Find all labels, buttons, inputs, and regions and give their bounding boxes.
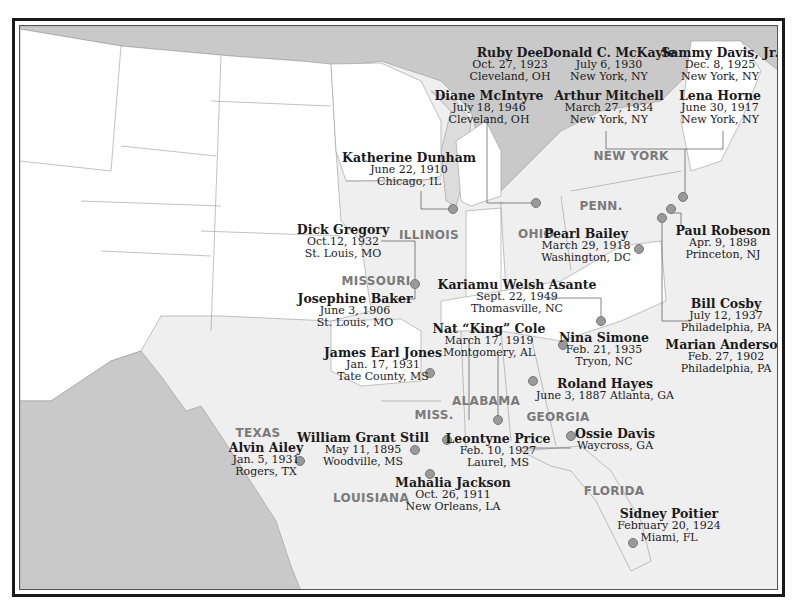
person-birth-date: Dec. 8, 1925 [661,59,778,71]
person-birth-date: July 6, 1930 [542,59,675,71]
person-label: Pearl BaileyMarch 29, 1918Washington, DC [541,227,631,263]
person-birthplace: Tryon, NC [559,356,649,368]
person-birthplace: Chicago, IL [342,176,476,188]
person-birth-date: March 27, 1934 [554,102,664,114]
location-dot-icon [410,279,420,289]
person-birth-date: Apr. 9, 1898 [675,237,770,249]
person-label: Donald C. McKayleJuly 6, 1930New York, N… [542,46,675,82]
person-birth-date: Feb. 27, 1902 [665,351,778,363]
map-canvas: NEW YORKPENN.OHIOILLINOISMISSOURIALABAMA… [19,25,778,590]
person-label: Alvin AileyJan. 5, 1931Rogers, TX [229,441,303,477]
person-birth-date: Feb. 21, 1935 [559,344,649,356]
person-birth-date: June 3, 1887 Atlanta, GA [536,390,674,402]
person-birthplace: St. Louis, MO [297,248,389,260]
state-label: MISS. [414,408,453,422]
location-dot-icon [596,316,606,326]
person-label: Ossie DavisWaycross, GA [575,427,655,452]
person-label: Katherine DunhamJune 22, 1910Chicago, IL [342,151,476,187]
person-label: Nat “King” ColeMarch 17, 1919Montgomery,… [433,322,546,358]
person-birth-date: Waycross, GA [575,440,655,452]
person-birthplace: Montgomery, AL [433,347,546,359]
person-label: Marian AndersonFeb. 27, 1902Philadelphia… [665,338,778,374]
state-label: TEXAS [235,426,280,440]
person-birth-date: June 3, 1906 [297,305,412,317]
person-birth-date: Jan. 17, 1931 [324,359,442,371]
person-label: William Grant StillMay 11, 1895Woodville… [297,431,429,467]
person-birthplace: Miami, FL [617,532,720,544]
person-label: James Earl JonesJan. 17, 1931Tate County… [324,346,442,382]
person-label: Sammy Davis, Jr.Dec. 8, 1925New York, NY [661,46,778,82]
person-birthplace: Cleveland, OH [434,114,543,126]
person-birthplace: New York, NY [679,114,761,126]
person-birthplace: New Orleans, LA [395,501,511,513]
person-label: Leontyne PriceFeb. 10, 1927Laurel, MS [446,432,551,468]
person-birthplace: Philadelphia, PA [665,363,778,375]
person-label: Bill CosbyJuly 12, 1937Philadelphia, PA [681,297,772,333]
person-birth-date: July 12, 1937 [681,310,772,322]
state-label: GEORGIA [526,410,589,424]
person-birthplace: Laurel, MS [446,457,551,469]
person-birth-date: Oct. 26, 1911 [395,489,511,501]
location-dot-icon [634,244,644,254]
person-label: Kariamu Welsh AsanteSept. 22, 1949Thomas… [438,278,597,314]
person-birth-date: June 22, 1910 [342,164,476,176]
person-birthplace: New York, NY [554,114,664,126]
person-birthplace: Philadelphia, PA [681,322,772,334]
person-birthplace: St. Louis, MO [297,317,412,329]
person-birth-date: Jan. 5, 1931 [229,454,303,466]
location-dot-icon [493,415,503,425]
person-birthplace: Princeton, NJ [675,249,770,261]
person-birth-date: May 11, 1895 [297,444,429,456]
person-label: Mahalia JacksonOct. 26, 1911New Orleans,… [395,476,511,512]
person-birth-date: Oct.12, 1932 [297,236,389,248]
person-label: Diane McIntyreJuly 18, 1946Cleveland, OH [434,89,543,125]
person-label: Sidney PoitierFebruary 20, 1924Miami, FL [617,507,720,543]
state-label: ILLINOIS [399,228,459,242]
state-label: FLORIDA [584,484,645,498]
person-birth-date: Feb. 10, 1927 [446,445,551,457]
person-birthplace: Washington, DC [541,252,631,264]
location-dot-icon [531,198,541,208]
person-birthplace: Cleveland, OH [470,71,551,83]
location-dot-icon [666,204,676,214]
person-label: Roland HayesJune 3, 1887 Atlanta, GA [536,377,674,402]
person-birth-date: March 17, 1919 [433,335,546,347]
person-birthplace: Woodville, MS [297,456,429,468]
location-dot-icon [448,204,458,214]
person-birthplace: Thomasville, NC [438,303,597,315]
person-label: Arthur MitchellMarch 27, 1934New York, N… [554,89,664,125]
location-dot-icon [657,213,667,223]
person-label: Dick GregoryOct.12, 1932St. Louis, MO [297,223,389,259]
person-birthplace: Tate County, MS [324,371,442,383]
person-label: Paul RobesonApr. 9, 1898Princeton, NJ [675,224,770,260]
state-label: ALABAMA [452,394,520,408]
person-birth-date: March 29, 1918 [541,240,631,252]
person-birthplace: Rogers, TX [229,466,303,478]
person-birthplace: New York, NY [661,71,778,83]
person-birth-date: February 20, 1924 [617,520,720,532]
person-label: Lena HorneJune 30, 1917New York, NY [679,89,761,125]
person-label: Ruby DeeOct. 27, 1923Cleveland, OH [470,46,551,82]
person-birth-date: July 18, 1946 [434,102,543,114]
state-label: NEW YORK [593,149,668,163]
state-label: MISSOURI [341,274,410,288]
person-label: Nina SimoneFeb. 21, 1935Tryon, NC [559,331,649,367]
person-birth-date: Oct. 27, 1923 [470,59,551,71]
person-label: Josephine BakerJune 3, 1906St. Louis, MO [297,292,412,328]
location-dot-icon [678,192,688,202]
state-label: PENN. [579,199,622,213]
person-birth-date: Sept. 22, 1949 [438,291,597,303]
person-birth-date: June 30, 1917 [679,102,761,114]
person-birthplace: New York, NY [542,71,675,83]
